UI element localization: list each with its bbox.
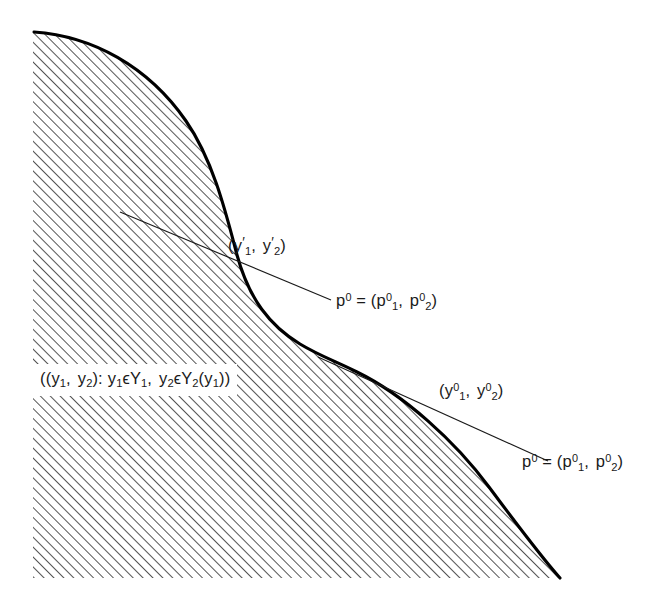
price-upper-p1: p <box>377 291 386 309</box>
price-lower-p: p <box>522 452 531 470</box>
set-def-Y2: Y <box>181 369 192 387</box>
price-lower-comma: , <box>584 452 596 470</box>
price-upper-comma: , <box>398 291 410 309</box>
y-prime-point-label: (y′1, y′2) <box>228 235 286 257</box>
y-zero-y2: y <box>477 381 485 399</box>
price-lower-close: ) <box>618 452 624 470</box>
price-upper-close: ) <box>432 291 438 309</box>
price-upper-equals: = <box>351 291 370 309</box>
price-upper-p2: p <box>410 291 419 309</box>
set-def-comma-2: , <box>147 369 159 387</box>
y-zero-y1: y <box>445 381 453 399</box>
y-prime-y2: y <box>263 236 271 254</box>
price-lower-p1: p <box>563 452 572 470</box>
price-vector-upper-label: p0 = (p01, p02) <box>336 291 437 312</box>
production-set-hatching <box>0 0 658 615</box>
set-def-Y1: Y <box>130 369 141 387</box>
set-def-y2: y <box>78 369 86 387</box>
production-set-definition: ((y1, y2): y1ϵY1, y2ϵY2(y1)) <box>33 364 237 396</box>
set-def-y1b: y <box>108 369 116 387</box>
set-def-arg-y1: y <box>204 369 212 387</box>
price-lower-equals: = <box>537 452 556 470</box>
set-def-y1: y <box>51 369 59 387</box>
y-prime-close: ) <box>280 236 286 254</box>
y-zero-comma: , <box>465 381 477 399</box>
y-prime-comma: , <box>251 236 263 254</box>
set-def-member-1: ϵ <box>122 369 130 387</box>
y-zero-close: ) <box>498 381 504 399</box>
set-def-close-outer: ) <box>225 369 231 387</box>
y-prime-y1: y <box>234 236 242 254</box>
set-def-member-2: ϵ <box>174 369 182 387</box>
figure-root: (y′1, y′2) p0 = (p01, p02) ((y1, y2): y1… <box>0 0 658 615</box>
price-upper-p: p <box>336 291 345 309</box>
diagram-canvas <box>0 0 658 615</box>
set-def-colon: : <box>98 369 108 387</box>
y-zero-point-label: (y01, y02) <box>439 381 504 402</box>
price-vector-lower-label: p0 = (p01, p02) <box>522 452 623 473</box>
set-def-comma-1: , <box>66 369 78 387</box>
price-lower-p2: p <box>596 452 605 470</box>
